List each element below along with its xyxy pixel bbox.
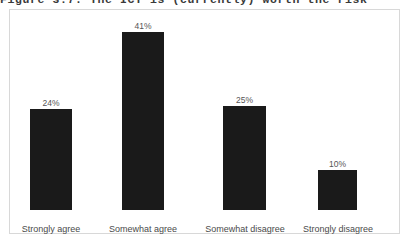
category-label-somewhat-agree: Somewhat agree — [94, 223, 192, 235]
bar-strongly-disagree[interactable] — [318, 170, 357, 210]
bar-value-label: 25% — [209, 95, 280, 105]
bar-group-strongly-agree: 24% — [30, 10, 72, 210]
category-label-strongly-disagree: Strongly disagree — [283, 223, 393, 235]
bar-group-somewhat-agree: 41% — [122, 10, 164, 210]
bar-somewhat-disagree[interactable] — [223, 106, 266, 210]
figure-caption: Figure 3.7: The ICT is (currently) worth… — [0, 0, 408, 6]
chart-frame: 24% Strongly agree 41% Somewhat agree 25… — [9, 9, 400, 234]
bar-value-label: 10% — [304, 159, 371, 169]
bar-group-strongly-disagree: 10% — [318, 10, 357, 210]
plot-area: 24% Strongly agree 41% Somewhat agree 25… — [10, 10, 399, 233]
bar-value-label: 41% — [108, 21, 178, 31]
category-label-strongly-agree: Strongly agree — [2, 223, 100, 235]
bar-strongly-agree[interactable] — [30, 109, 72, 210]
bar-group-somewhat-disagree: 25% — [223, 10, 266, 210]
bar-value-label: 24% — [16, 98, 86, 108]
bar-somewhat-agree[interactable] — [122, 32, 164, 210]
